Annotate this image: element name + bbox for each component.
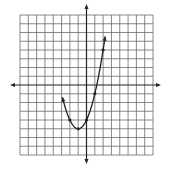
data-point: [102, 48, 105, 51]
y-axis-down-arrow-icon: [85, 159, 89, 164]
data-point: [68, 118, 71, 121]
x-axis-right-arrow-icon: [156, 83, 161, 87]
graph-svg: [0, 0, 170, 170]
axes: [10, 4, 161, 164]
x-axis-left-arrow-icon: [10, 83, 15, 87]
coordinate-plane-figure: [0, 0, 170, 170]
data-point: [85, 118, 88, 121]
data-point: [93, 92, 96, 95]
data-point: [77, 127, 80, 130]
y-axis-up-arrow-icon: [85, 4, 89, 9]
